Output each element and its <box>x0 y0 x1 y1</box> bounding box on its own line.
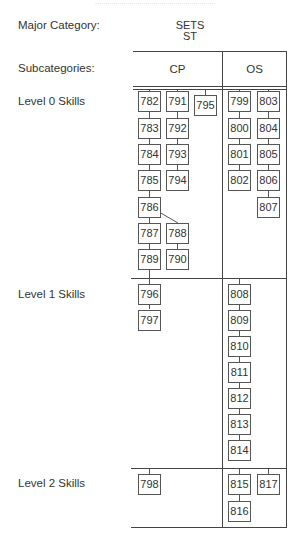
skill-box-798: 798 <box>138 474 161 495</box>
skill-box-787: 787 <box>138 223 161 244</box>
skill-box-802: 802 <box>228 170 251 191</box>
skill-box-793: 793 <box>166 144 189 165</box>
skill-box-815: 815 <box>228 474 251 495</box>
skill-box-803: 803 <box>257 91 280 112</box>
skill-box-805: 805 <box>257 144 280 165</box>
skill-box-783: 783 <box>138 118 161 139</box>
skill-box-794: 794 <box>166 170 189 191</box>
skill-box-789: 789 <box>138 249 161 270</box>
skill-box-809: 809 <box>228 310 251 331</box>
skill-box-806: 806 <box>257 170 280 191</box>
skill-box-791: 791 <box>166 91 189 112</box>
skill-box-788: 788 <box>166 223 189 244</box>
skill-box-810: 810 <box>228 336 251 357</box>
skill-box-782: 782 <box>138 91 161 112</box>
skill-box-817: 817 <box>257 474 280 495</box>
skill-box-792: 792 <box>166 118 189 139</box>
skill-box-816: 816 <box>228 501 251 522</box>
skill-box-797: 797 <box>138 310 161 331</box>
skill-box-812: 812 <box>228 388 251 409</box>
skill-box-807: 807 <box>257 197 280 218</box>
skill-box-813: 813 <box>228 414 251 435</box>
skill-box-811: 811 <box>228 362 251 383</box>
skill-box-799: 799 <box>228 91 251 112</box>
skill-box-801: 801 <box>228 144 251 165</box>
skill-box-808: 808 <box>228 284 251 305</box>
skill-box-795: 795 <box>194 95 217 116</box>
skill-box-784: 784 <box>138 144 161 165</box>
skill-box-790: 790 <box>166 249 189 270</box>
skill-box-785: 785 <box>138 170 161 191</box>
skill-box-786: 786 <box>138 197 161 218</box>
skill-box-814: 814 <box>228 440 251 461</box>
skill-box-796: 796 <box>138 284 161 305</box>
skill-box-804: 804 <box>257 118 280 139</box>
skill-box-800: 800 <box>228 118 251 139</box>
